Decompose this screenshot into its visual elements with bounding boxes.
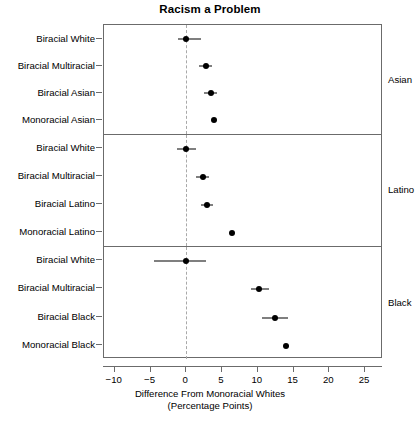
y-axis-tick-label: Monoracial Latino <box>19 226 95 237</box>
x-axis-tick <box>293 366 294 372</box>
y-axis-tick-label: Monoracial Black <box>22 338 95 349</box>
x-axis-line <box>103 366 382 367</box>
y-axis-tick <box>96 287 102 288</box>
panel-strip-label: Asian <box>388 73 412 84</box>
y-axis-tick <box>96 147 102 148</box>
y-axis-labels: Biracial WhiteBiracial MultiracialBiraci… <box>0 0 95 421</box>
data-point <box>200 174 206 180</box>
x-axis-tick-label: 20 <box>323 374 334 385</box>
y-axis-tick <box>96 316 102 317</box>
panel-strip-label: Black <box>388 296 411 307</box>
x-axis-tick <box>185 366 186 372</box>
x-axis-tick-label: 10 <box>251 374 262 385</box>
y-axis-tick <box>96 119 102 120</box>
data-point <box>211 117 217 123</box>
y-axis-tick <box>96 203 102 204</box>
y-axis-tick <box>96 259 102 260</box>
y-axis-tick-label: Biracial Black <box>37 310 95 321</box>
plot-area <box>103 24 382 358</box>
data-point <box>208 90 214 96</box>
error-bar <box>154 261 206 262</box>
data-point <box>229 230 235 236</box>
x-axis-tick-label: −5 <box>144 374 155 385</box>
x-axis-tick <box>328 366 329 372</box>
panel-latino <box>104 134 381 246</box>
data-point <box>256 286 262 292</box>
error-bar <box>178 38 201 39</box>
x-axis-label-line2: (Percentage Points) <box>0 400 420 412</box>
y-axis-tick-label: Biracial White <box>36 32 95 43</box>
y-axis-tick-label: Monoracial Asian <box>22 114 95 125</box>
x-axis-tick <box>257 366 258 372</box>
x-axis-tick <box>114 366 115 372</box>
panel-black <box>104 246 381 359</box>
x-axis-tick-label: 15 <box>287 374 298 385</box>
data-point <box>183 146 189 152</box>
y-axis-tick-label: Biracial Latino <box>35 198 95 209</box>
data-point <box>204 202 210 208</box>
y-axis-tick-label: Biracial Multiracial <box>18 282 95 293</box>
y-axis-tick-label: Biracial White <box>36 254 95 265</box>
x-axis-label: Difference From Monoracial Whites (Perce… <box>0 388 420 412</box>
panel-strip-label: Latino <box>388 184 414 195</box>
x-axis-tick <box>221 366 222 372</box>
data-point <box>272 315 278 321</box>
y-axis-tick <box>96 92 102 93</box>
y-axis-tick <box>96 344 102 345</box>
data-point <box>203 63 209 69</box>
x-axis-tick-label: 0 <box>183 374 188 385</box>
y-axis-tick-label: Biracial Multiracial <box>18 170 95 181</box>
panel-asian <box>104 25 381 134</box>
data-point <box>183 258 189 264</box>
y-axis-tick <box>96 231 102 232</box>
chart-figure: Racism a Problem Biracial WhiteBiracial … <box>0 0 420 421</box>
y-axis-tick-label: Biracial Multiracial <box>18 59 95 70</box>
y-axis-tick <box>96 175 102 176</box>
data-point <box>183 36 189 42</box>
y-axis-tick-label: Biracial Asian <box>37 87 95 98</box>
x-axis-tick <box>150 366 151 372</box>
y-axis-tick <box>96 65 102 66</box>
x-axis-tick-label: 25 <box>359 374 370 385</box>
y-axis-tick-label: Biracial White <box>36 142 95 153</box>
data-point <box>283 343 289 349</box>
x-axis-tick <box>364 366 365 372</box>
x-axis-tick-label: 5 <box>218 374 223 385</box>
x-axis-tick-label: −10 <box>106 374 122 385</box>
y-axis-tick <box>96 38 102 39</box>
x-axis-label-line1: Difference From Monoracial Whites <box>0 388 420 400</box>
